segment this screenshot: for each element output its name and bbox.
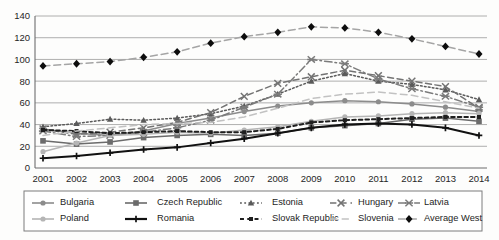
data-point-marker	[74, 140, 79, 145]
data-point-marker	[40, 216, 45, 221]
series-romania	[40, 120, 483, 161]
data-point-marker	[108, 131, 112, 135]
line-chart: 020406080100120140 200120022003200420052…	[0, 0, 499, 240]
series-estonia	[40, 70, 482, 129]
data-point-marker	[309, 120, 313, 124]
x-tick-label: 2008	[267, 173, 288, 184]
data-point-marker	[375, 28, 382, 36]
data-point-marker	[209, 130, 213, 134]
data-point-marker	[408, 35, 415, 43]
data-point-marker	[142, 130, 146, 134]
data-point-marker	[40, 138, 46, 144]
data-point-marker	[40, 200, 45, 205]
data-point-marker	[73, 153, 80, 160]
gridlines	[35, 16, 487, 168]
data-point-marker	[376, 99, 381, 104]
data-point-marker	[276, 127, 280, 131]
data-point-marker	[443, 110, 448, 115]
legend-label-poland: Poland	[60, 213, 89, 223]
x-tick-label: 2006	[200, 173, 221, 184]
legend-label-czech-republic: Czech Republic	[157, 197, 222, 207]
chart-legend: BulgariaCzech RepublicEstoniaHungaryLatv…	[24, 191, 482, 231]
x-tick-label: 2013	[435, 173, 456, 184]
data-point-marker	[308, 23, 315, 31]
data-point-marker	[107, 150, 114, 157]
legend-label-slovak-republic: Slovak Republic	[272, 213, 339, 223]
data-point-marker	[476, 132, 483, 139]
y-tick-label: 140	[14, 10, 30, 21]
x-tick-label: 2001	[32, 173, 53, 184]
data-point-marker	[241, 93, 248, 100]
series-layer	[39, 23, 483, 162]
data-point-marker	[174, 144, 181, 151]
y-tick-label: 60	[19, 97, 30, 108]
data-point-marker	[274, 28, 281, 36]
legend-label-estonia: Estonia	[272, 197, 304, 207]
x-tick-label: 2012	[401, 173, 422, 184]
data-point-marker	[175, 129, 179, 133]
y-tick-label: 20	[19, 141, 30, 152]
data-point-marker	[443, 105, 448, 110]
series-average-west	[40, 23, 483, 70]
x-tick-label: 2010	[334, 173, 355, 184]
y-tick-label: 40	[19, 119, 30, 130]
data-point-marker	[41, 128, 45, 132]
series-latvia	[39, 56, 483, 139]
data-point-marker	[409, 121, 416, 128]
series-hungary	[40, 67, 483, 138]
x-tick-label: 2002	[66, 173, 87, 184]
chart-canvas: 020406080100120140 200120022003200420052…	[0, 0, 499, 240]
data-point-marker	[341, 61, 349, 67]
data-point-marker	[343, 118, 347, 122]
y-tick-label: 100	[14, 54, 30, 65]
legend-label-average-west: Average West	[424, 213, 482, 223]
data-point-marker	[207, 140, 214, 147]
x-tick-label: 2011	[368, 173, 388, 184]
data-point-marker	[342, 98, 347, 103]
data-point-marker	[442, 43, 449, 51]
x-tick-label: 2007	[234, 173, 255, 184]
y-tick-label: 0	[25, 162, 30, 173]
data-point-marker	[140, 53, 147, 61]
data-point-marker	[107, 58, 114, 66]
data-point-marker	[409, 111, 414, 116]
data-point-marker	[242, 130, 246, 134]
data-point-marker	[307, 56, 315, 62]
data-point-marker	[107, 139, 113, 145]
data-point-marker	[410, 116, 414, 120]
y-axis-tick-labels: 020406080100120140	[14, 10, 30, 173]
data-point-marker	[442, 125, 449, 132]
data-point-marker	[309, 100, 314, 105]
data-point-marker	[207, 39, 214, 47]
legend-label-romania: Romania	[157, 213, 195, 223]
y-tick-label: 120	[14, 32, 30, 43]
legend-label-bulgaria: Bulgaria	[60, 197, 95, 207]
x-tick-label: 2003	[100, 173, 121, 184]
x-tick-label: 2009	[301, 173, 322, 184]
legend-label-hungary: Hungary	[358, 197, 393, 207]
legend-label-latvia: Latvia	[424, 197, 450, 207]
x-tick-label: 2004	[133, 173, 154, 184]
data-point-marker	[174, 48, 181, 56]
legend-label-slovenia: Slovenia	[358, 213, 394, 223]
x-tick-label: 2005	[167, 173, 188, 184]
data-point-marker	[341, 24, 348, 32]
y-tick-label: 80	[19, 76, 30, 87]
data-point-marker	[477, 115, 481, 119]
data-point-marker	[133, 200, 139, 206]
data-point-marker	[40, 149, 45, 154]
data-point-marker	[140, 146, 147, 153]
data-point-marker	[476, 119, 482, 125]
data-point-marker	[376, 117, 380, 121]
data-point-marker	[241, 33, 248, 41]
x-axis-tick-labels: 2001200220032004200520062007200820092010…	[32, 173, 489, 184]
data-point-marker	[443, 115, 447, 119]
data-point-marker	[476, 50, 483, 58]
data-point-marker	[73, 60, 80, 68]
data-point-marker	[40, 62, 47, 70]
data-point-marker	[441, 93, 449, 99]
data-point-marker	[409, 101, 414, 106]
data-point-marker	[249, 217, 253, 221]
x-tick-label: 2014	[468, 173, 489, 184]
data-point-marker	[40, 155, 47, 162]
